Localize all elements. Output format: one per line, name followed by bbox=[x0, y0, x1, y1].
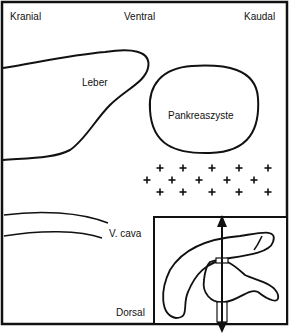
arrow-down-icon bbox=[217, 322, 227, 333]
label-leber: Leber bbox=[82, 78, 108, 88]
label-dorsal: Dorsal bbox=[116, 308, 145, 318]
label-kaudal: Kaudal bbox=[244, 12, 275, 22]
marker-field bbox=[144, 165, 272, 196]
label-vena-cava: V. cava bbox=[109, 229, 141, 239]
label-pankreaszyste: Pankreaszyste bbox=[168, 111, 234, 121]
liver-outline bbox=[3, 50, 148, 160]
label-kranial: Kranial bbox=[10, 12, 41, 22]
diagram-drawing bbox=[0, 0, 289, 334]
vena-cava-lower bbox=[4, 232, 102, 238]
label-ventral: Ventral bbox=[124, 12, 155, 22]
vena-cava-upper bbox=[4, 212, 108, 223]
ultrasound-diagram: Kranial Ventral Kaudal Leber Pankreaszys… bbox=[0, 0, 289, 334]
